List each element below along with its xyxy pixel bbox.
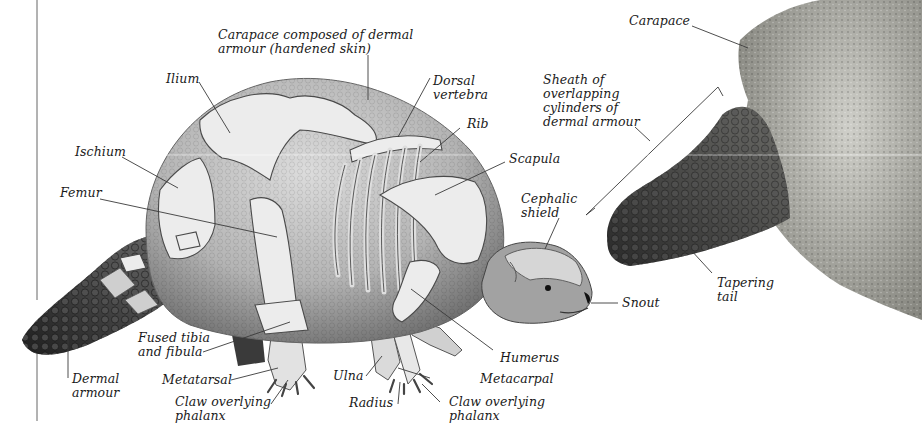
label-tapering-tail: Tapering tail [717, 276, 774, 304]
label-dorsal-vertebra: Dorsal vertebra [433, 74, 488, 102]
label-claw-hind: Claw overlying phalanx [175, 395, 271, 423]
label-rib: Rib [467, 117, 489, 131]
label-cephalic-shield: Cephalic shield [521, 192, 577, 220]
label-metatarsal: Metatarsal [162, 373, 232, 387]
label-ischium: Ischium [75, 145, 126, 159]
label-snout: Snout [622, 296, 660, 310]
label-scapula: Scapula [509, 152, 560, 166]
label-sheath: Sheath of overlapping cylinders of derma… [543, 73, 640, 129]
label-carapace-composed: Carapace composed of dermal armour (hard… [218, 28, 413, 56]
label-ulna: Ulna [333, 369, 363, 383]
detail-figure [586, 0, 922, 320]
label-carapace: Carapace [629, 14, 690, 28]
label-femur: Femur [60, 186, 102, 200]
label-metacarpal: Metacarpal [480, 372, 554, 386]
label-humerus: Humerus [500, 351, 559, 365]
label-radius: Radius [349, 396, 393, 410]
label-claw-fore: Claw overlying phalanx [449, 395, 545, 423]
label-fused-tibia-fibula: Fused tibia and fibula [138, 331, 210, 359]
label-dermal-armour: Dermal armour [72, 372, 119, 400]
tibia-fibula-bone [255, 300, 308, 334]
label-ilium: Ilium [166, 72, 199, 86]
head [482, 242, 592, 323]
